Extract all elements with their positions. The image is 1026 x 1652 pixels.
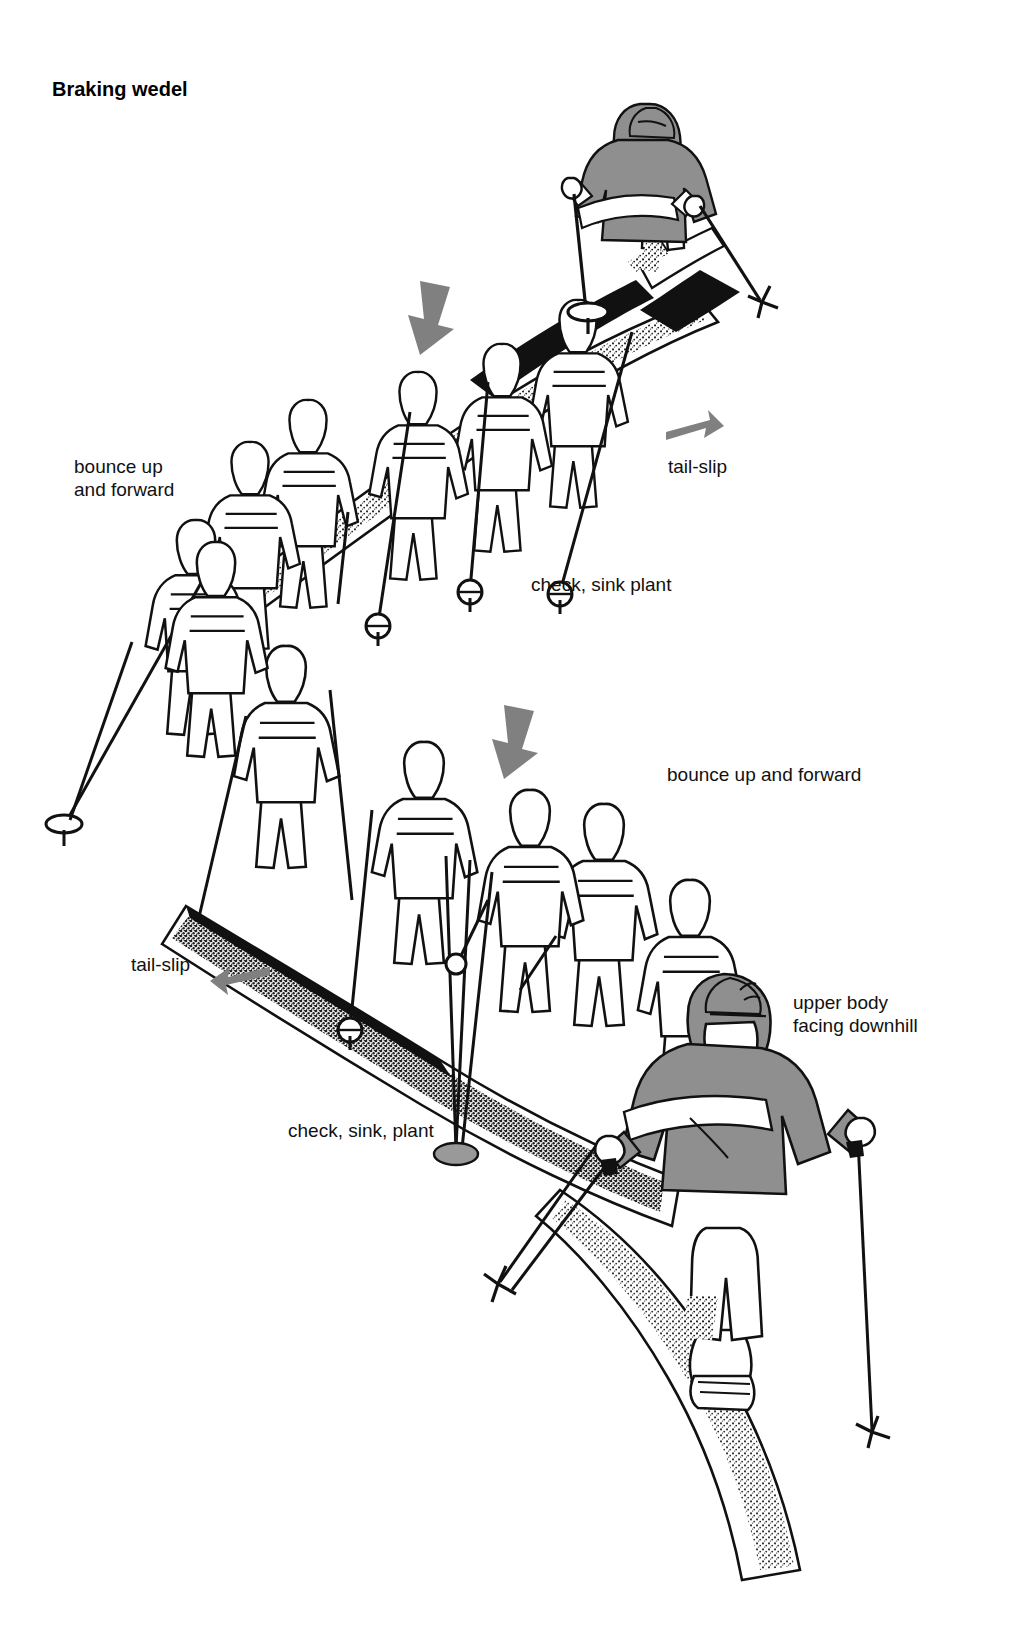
braking-wedel-illustration <box>0 0 1026 1652</box>
label-check-sink-plant-lower: check, sink, plant <box>288 1119 434 1142</box>
label-upper-body-facing-downhill: upper body facing downhill <box>793 991 918 1037</box>
label-check-sink-plant-upper: check, sink plant <box>531 573 671 596</box>
label-bounce-up-and-forward-upper: bounce up and forward <box>74 455 174 501</box>
page-title: Braking wedel <box>52 78 188 101</box>
label-tail-slip-upper: tail-slip <box>668 455 727 478</box>
label-bounce-up-and-forward-lower: bounce up and forward <box>667 763 861 786</box>
illustration-canvas: Braking wedel bounce up and forward tail… <box>0 0 1026 1652</box>
label-tail-slip-lower: tail-slip <box>131 953 190 976</box>
